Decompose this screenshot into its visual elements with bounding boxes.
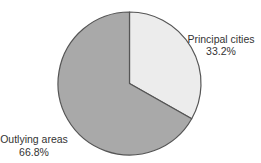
pie-chart: Principal cities 33.2% Outlying areas 66…: [0, 0, 261, 163]
slice-label-principal-cities: Principal cities: [187, 33, 254, 45]
slice-label-outlying-areas: Outlying areas: [0, 133, 68, 145]
pie-slices: [58, 12, 201, 155]
slice-value-outlying-areas: 66.8%: [19, 146, 49, 158]
slice-value-principal-cities: 33.2%: [206, 45, 236, 57]
